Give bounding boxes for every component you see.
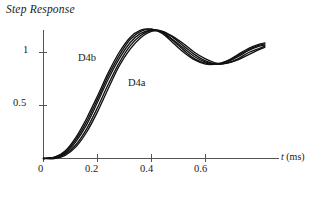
plot-area	[0, 0, 313, 201]
x-axis-label-symbol: t	[281, 151, 284, 162]
curve-label-d4a: D4a	[128, 77, 146, 88]
x-axis-label-unit: (ms)	[286, 151, 304, 162]
x-tick-label-0-2: 0.2	[85, 163, 98, 174]
x-tick-label-0-4: 0.4	[140, 163, 153, 174]
x-axis-label: t (ms)	[281, 151, 305, 162]
y-tick-label-1: 1	[23, 44, 28, 55]
response-curves	[44, 29, 265, 159]
curve-label-d4b: D4b	[78, 52, 96, 63]
response-curve	[44, 29, 265, 158]
y-tick-label-0-5: 0.5	[13, 97, 26, 108]
x-tick-label-0: 0	[38, 163, 43, 174]
step-response-figure: Step Response D4b D4a t (ms) 1 0.5 0 0.2…	[0, 0, 313, 201]
x-tick-label-0-6: 0.6	[194, 163, 207, 174]
